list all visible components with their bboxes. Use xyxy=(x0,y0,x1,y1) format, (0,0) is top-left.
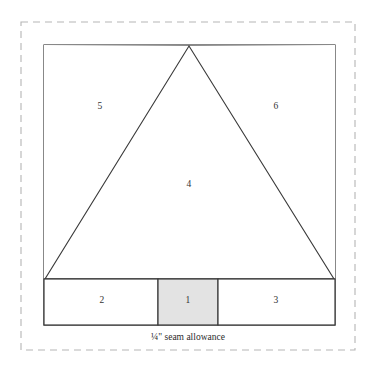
piece-label-1: 1 xyxy=(186,295,191,305)
piece-label-4: 4 xyxy=(187,179,192,189)
piece-label-5: 5 xyxy=(98,101,103,111)
quilt-block-diagram: 5 6 4 2 1 3 ¼" seam allowance xyxy=(0,0,371,370)
piece-label-6: 6 xyxy=(274,101,279,111)
seam-allowance-caption: ¼" seam allowance xyxy=(151,332,225,342)
piece-label-2: 2 xyxy=(100,295,105,305)
block-diagram-canvas: 5 6 4 2 1 3 ¼" seam allowance xyxy=(0,0,371,370)
piece-label-3: 3 xyxy=(274,295,279,305)
